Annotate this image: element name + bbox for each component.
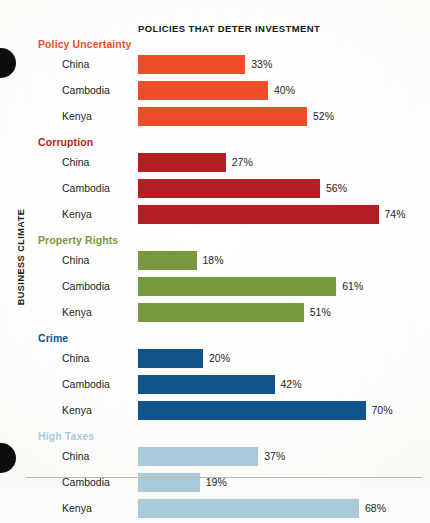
- bar-track: 52%: [138, 107, 424, 126]
- bar-chart: Policy UncertaintyChina33%Cambodia40%Ken…: [0, 38, 430, 523]
- bar-value-label: 37%: [264, 450, 285, 462]
- bar-value-label: 56%: [326, 182, 347, 194]
- bar-value-label: 61%: [342, 280, 363, 292]
- bar-row: Kenya70%: [0, 399, 430, 421]
- bar-track: 74%: [138, 205, 424, 224]
- bar-track: 20%: [138, 349, 424, 368]
- bar: [138, 107, 307, 126]
- page-title: POLICIES THAT DETER INVESTMENT: [138, 23, 320, 34]
- bar-category-label: Kenya: [62, 208, 134, 220]
- bar-group: High TaxesChina37%Cambodia19%Kenya68%: [0, 430, 430, 519]
- bar-category-label: Kenya: [62, 502, 134, 514]
- bar-value-label: 40%: [274, 84, 295, 96]
- bar-value-label: 20%: [209, 352, 230, 364]
- bar: [138, 153, 226, 172]
- bar-row: Cambodia19%: [0, 471, 430, 493]
- bar: [138, 277, 336, 296]
- bar-category-label: China: [62, 450, 134, 462]
- bar-value-label: 33%: [251, 58, 272, 70]
- bar-category-label: Cambodia: [62, 84, 134, 96]
- bar: [138, 375, 275, 394]
- bar-value-label: 68%: [365, 502, 386, 514]
- bar-row: China27%: [0, 151, 430, 173]
- bar-row: Cambodia40%: [0, 79, 430, 101]
- bar-track: 42%: [138, 375, 424, 394]
- bar-row: China20%: [0, 347, 430, 369]
- bottom-divider-rule: [26, 477, 422, 478]
- bar-row: China18%: [0, 249, 430, 271]
- bar-track: 68%: [138, 499, 424, 518]
- bar-row: Kenya51%: [0, 301, 430, 323]
- bar-value-label: 18%: [203, 254, 224, 266]
- bar-track: 19%: [138, 473, 424, 492]
- bar-group-heading: Corruption: [0, 136, 430, 148]
- bar: [138, 499, 359, 518]
- bar-group-heading: Policy Uncertainty: [0, 38, 430, 50]
- bar-category-label: China: [62, 254, 134, 266]
- bar-category-label: Cambodia: [62, 182, 134, 194]
- bar-category-label: China: [62, 58, 134, 70]
- bar: [138, 205, 379, 224]
- bar-category-label: China: [62, 156, 134, 168]
- bar: [138, 473, 200, 492]
- bar-track: 40%: [138, 81, 424, 100]
- bar-value-label: 70%: [372, 404, 393, 416]
- bar-value-label: 51%: [310, 306, 331, 318]
- bar-group: CorruptionChina27%Cambodia56%Kenya74%: [0, 136, 430, 225]
- bar-group-heading: Property Rights: [0, 234, 430, 246]
- bar-value-label: 74%: [385, 208, 406, 220]
- bar-row: China37%: [0, 445, 430, 467]
- bar-category-label: Kenya: [62, 306, 134, 318]
- bar-group: Property RightsChina18%Cambodia61%Kenya5…: [0, 234, 430, 323]
- bar-track: 18%: [138, 251, 424, 270]
- bar-row: Kenya52%: [0, 105, 430, 127]
- bar-group-heading: Crime: [0, 332, 430, 344]
- bar-row: Cambodia56%: [0, 177, 430, 199]
- bar: [138, 81, 268, 100]
- bar-group: Policy UncertaintyChina33%Cambodia40%Ken…: [0, 38, 430, 127]
- bar-group: CrimeChina20%Cambodia42%Kenya70%: [0, 332, 430, 421]
- bar: [138, 303, 304, 322]
- bar-track: 33%: [138, 55, 424, 74]
- bar-category-label: Kenya: [62, 404, 134, 416]
- bar: [138, 401, 366, 420]
- bar: [138, 447, 258, 466]
- bar-track: 70%: [138, 401, 424, 420]
- bar-category-label: Cambodia: [62, 280, 134, 292]
- bar-track: 56%: [138, 179, 424, 198]
- bar-track: 61%: [138, 277, 424, 296]
- bar: [138, 179, 320, 198]
- bar-row: Kenya74%: [0, 203, 430, 225]
- bar-row: Kenya68%: [0, 497, 430, 519]
- bar-row: Cambodia61%: [0, 275, 430, 297]
- bar-row: Cambodia42%: [0, 373, 430, 395]
- bar-group-heading: High Taxes: [0, 430, 430, 442]
- bar-value-label: 27%: [232, 156, 253, 168]
- bar-track: 37%: [138, 447, 424, 466]
- bar: [138, 55, 245, 74]
- bar-row: China33%: [0, 53, 430, 75]
- bar: [138, 251, 197, 270]
- bar-category-label: China: [62, 352, 134, 364]
- bar-value-label: 42%: [281, 378, 302, 390]
- bar: [138, 349, 203, 368]
- bar-category-label: Kenya: [62, 110, 134, 122]
- bar-value-label: 52%: [313, 110, 334, 122]
- bar-track: 51%: [138, 303, 424, 322]
- bar-category-label: Cambodia: [62, 378, 134, 390]
- bar-track: 27%: [138, 153, 424, 172]
